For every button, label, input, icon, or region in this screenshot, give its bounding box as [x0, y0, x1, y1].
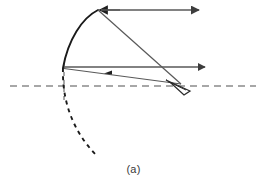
lower-reflected-ray: [64, 69, 181, 85]
figure-container: (a): [0, 0, 267, 190]
mirror-surface-arc: [63, 10, 98, 68]
mirror-surface-dashed-extension: [63, 68, 96, 155]
figure-caption: (a): [0, 162, 267, 176]
